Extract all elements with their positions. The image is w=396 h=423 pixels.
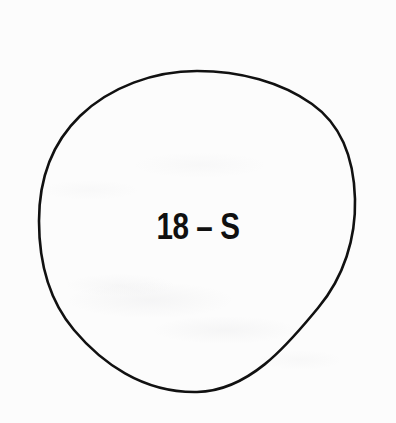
figure-canvas: 18 – S xyxy=(0,0,396,423)
circle-label: 18 – S xyxy=(40,207,357,247)
